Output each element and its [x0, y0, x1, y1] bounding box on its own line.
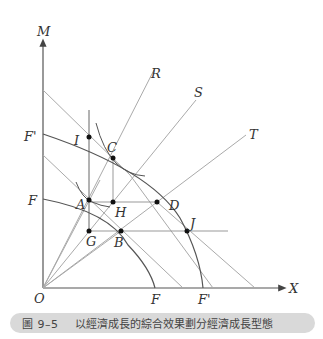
point-B — [119, 229, 124, 234]
label-G: G — [86, 234, 96, 249]
label-M: M — [36, 24, 51, 39]
label-A: A — [75, 197, 85, 212]
point-C — [111, 156, 116, 161]
label-J: J — [187, 216, 196, 231]
label-D: D — [168, 198, 180, 213]
label-O: O — [34, 291, 45, 306]
point-I — [87, 135, 92, 140]
figure-caption-text: 以經濟成長的綜合效果劃分經濟成長型態 — [75, 315, 273, 331]
point-H — [111, 200, 116, 205]
label-S: S — [194, 85, 203, 100]
label-F-prime-x: F' — [197, 292, 211, 307]
label-F-prime-y: F' — [23, 129, 37, 144]
label-T: T — [249, 127, 259, 142]
line-upper — [43, 90, 130, 175]
point-D — [155, 200, 160, 205]
point-A — [87, 198, 92, 203]
line-J — [157, 202, 255, 288]
label-H: H — [114, 205, 127, 220]
label-I: I — [73, 133, 80, 148]
points — [87, 135, 190, 234]
point-G — [87, 229, 92, 234]
label-R: R — [150, 66, 161, 81]
label-C: C — [107, 140, 117, 155]
label-B: B — [113, 235, 124, 250]
diagram: M X O F' F F F' R S T I C A H D G B J — [0, 0, 323, 310]
point-J — [185, 229, 190, 234]
ray-S — [43, 100, 196, 288]
label-F-x: F — [150, 292, 161, 307]
label-F-y: F — [27, 193, 38, 208]
curve-F — [43, 199, 155, 288]
label-X: X — [288, 281, 299, 296]
figure-caption: 圖 9–5 以經濟成長的綜合效果劃分經濟成長型態 — [10, 313, 315, 333]
figure-number: 圖 9–5 — [22, 315, 59, 331]
